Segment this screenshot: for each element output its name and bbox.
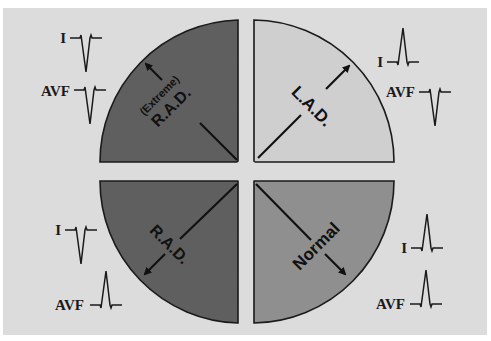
lad-lead-i-label: I [377, 54, 383, 70]
normal-lead-avf-label: AVF [376, 296, 405, 312]
extreme-rad-avf-waveform [74, 87, 106, 124]
lad-i-waveform [387, 28, 419, 65]
normal-lead-i-label: I [401, 240, 407, 256]
rad-i-waveform [65, 227, 97, 264]
rad-avf-waveform [90, 271, 122, 308]
extreme-lead-avf-label: AVF [41, 83, 70, 99]
rad-lead-i-label: I [55, 222, 61, 238]
extreme-lead-i-label: I [60, 30, 66, 46]
extreme-rad-i-waveform [70, 35, 102, 72]
normal-avf-waveform [410, 270, 442, 307]
axis-diagram: (Extreme) R.A.D. L.A.D. R.A.D. Normal I … [0, 0, 491, 341]
lad-avf-waveform [419, 89, 451, 126]
normal-i-waveform [411, 214, 443, 251]
lad-lead-avf-label: AVF [386, 84, 415, 100]
rad-lead-avf-label: AVF [55, 297, 84, 313]
center-hub [234, 159, 258, 183]
